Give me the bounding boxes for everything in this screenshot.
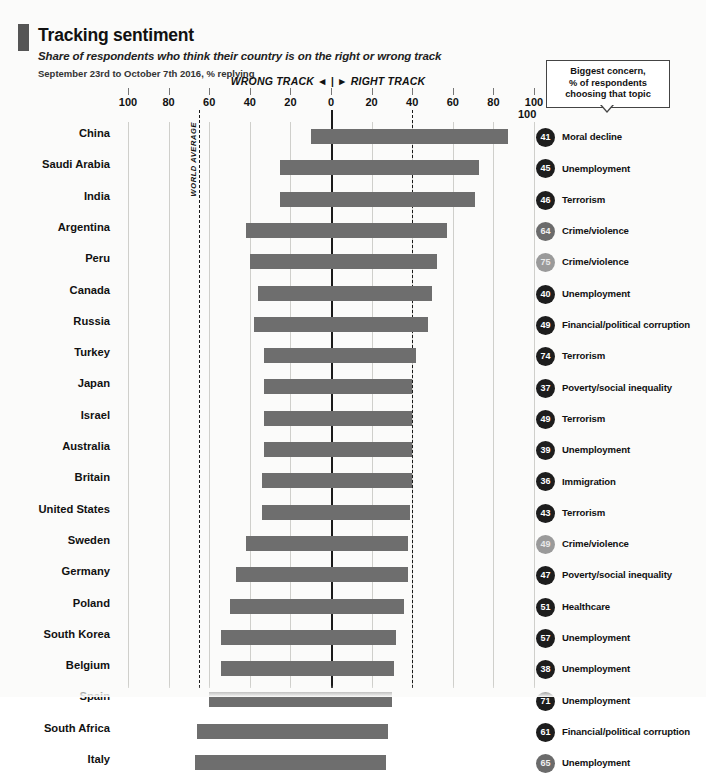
country-label: Argentina [58,221,110,233]
country-label: Israel [81,409,110,421]
concern-topic-label: Poverty/social inequality [562,383,672,394]
concern-item: 36Immigration [536,466,706,497]
diverging-bar [280,160,479,175]
concern-item: 57Unemployment [536,623,706,654]
chart-row: Britain [128,466,534,497]
concern-topic-label: Financial/political corruption [562,320,690,331]
diverging-bar [311,129,508,144]
x-tick-label: 60 [203,96,215,108]
chart-row: South Africa [128,717,534,748]
concern-topic-label: Unemployment [562,633,630,644]
concern-topic-label: Terrorism [562,508,605,519]
concern-item: 40Unemployment [536,279,706,310]
country-label: Sweden [68,534,110,546]
concern-topic-label: Terrorism [562,351,605,362]
concern-item: 64Crime/violence [536,216,706,247]
country-label: Saudi Arabia [42,158,110,170]
concern-value-badge: 45 [536,159,555,178]
diverging-bar [197,724,388,739]
country-label: Belgium [66,659,110,671]
x-tick-mark [331,88,332,95]
concern-topic-label: Unemployment [562,445,630,456]
legend-callout-box: Biggest concern, % of respondents choosi… [546,60,670,108]
legend-line-2: % of respondents [551,78,665,90]
concern-topic-label: Unemployment [562,164,630,175]
diverging-bar [264,348,416,363]
diverging-bar [236,567,409,582]
x-tick-mark [169,88,170,95]
concern-item: 41Moral decline [536,122,706,153]
chart-row: Israel [128,404,534,435]
x-tick-label: 100 [525,96,543,108]
concern-item: 75Crime/violence [536,247,706,278]
country-label: Russia [73,315,110,327]
diverging-bar [246,536,408,551]
concern-value-badge: 40 [536,285,555,304]
chart-row: Turkey [128,341,534,372]
x-tick-label: 20 [365,96,377,108]
chart-row: Canada [128,279,534,310]
country-label: Turkey [74,346,110,358]
x-tick-label: 40 [244,96,256,108]
x-tick-label: 60 [447,96,459,108]
concern-topic-label: Terrorism [562,414,605,425]
chart-row: Poland [128,592,534,623]
chart-row: Russia [128,310,534,341]
diverging-bar [264,442,412,457]
concern-item: 47Poverty/social inequality [536,560,706,591]
country-label: Germany [61,565,110,577]
country-label: Peru [85,252,110,264]
concern-topic-label: Financial/political corruption [562,727,690,738]
country-label: Poland [73,597,110,609]
x-tick-mark [128,88,129,95]
page-title: Tracking sentiment [38,25,194,46]
country-label: China [79,127,110,139]
chart-row: Australia [128,435,534,466]
chart-row: Argentina [128,216,534,247]
diverging-bar [246,223,447,238]
concern-value-badge: 49 [536,535,555,554]
concern-topic-label: Unemployment [562,758,630,769]
concern-item: 51Healthcare [536,592,706,623]
concern-topic-label: Moral decline [562,132,622,143]
accent-tab [18,24,29,51]
diverging-bar [221,630,396,645]
concern-topic-label: Immigration [562,477,616,488]
diverging-bar [264,379,412,394]
chart-subtitle: Share of respondents who think their cou… [38,50,441,62]
x-tick-label: 80 [162,96,174,108]
chart-row: Germany [128,560,534,591]
concern-topic-label: Crime/violence [562,539,629,550]
diverging-bar [195,755,386,770]
concern-topic-label: Crime/violence [562,226,629,237]
country-label: United States [39,503,111,515]
chart-row: China [128,122,534,153]
x-tick-mark [250,88,251,95]
country-label: Japan [78,377,110,389]
chart-row: Sweden [128,529,534,560]
concern-value-badge: 51 [536,598,555,617]
diverging-bar [230,599,405,614]
x-tick-label: 0 [328,96,334,108]
diverging-bar [262,473,412,488]
diverging-bar [280,192,475,207]
concern-item: 65Unemployment [536,748,706,777]
concern-value-badge: 65 [536,754,555,773]
concern-value-badge: 57 [536,629,555,648]
concern-item: 74Terrorism [536,341,706,372]
concern-item: 45Unemployment [536,153,706,184]
concern-topic-label: Poverty/social inequality [562,570,672,581]
concern-item: 49Crime/violence [536,529,706,560]
legend-callout-pointer-fill-icon [601,104,613,111]
concern-value-badge: 41 [536,128,555,147]
concern-item: 46Terrorism [536,185,706,216]
chart-row: Japan [128,372,534,403]
x-tick-label: 100 [119,96,137,108]
x-tick-label: 80 [487,96,499,108]
x-tick-label: 40 [406,96,418,108]
concern-value-badge: 36 [536,472,555,491]
concern-value-badge: 49 [536,316,555,335]
x-tick-mark [493,88,494,95]
concern-value-badge: 49 [536,410,555,429]
